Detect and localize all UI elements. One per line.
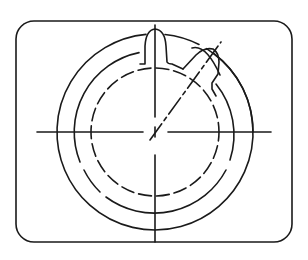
technical-drawing	[0, 0, 308, 260]
middle-circle-lower-left	[84, 170, 100, 192]
middle-circle-bottom	[106, 170, 226, 213]
drawing-canvas	[0, 0, 308, 260]
angled-slot	[183, 49, 219, 96]
center-line-diagonal	[150, 42, 221, 140]
outer-circle-top-segment	[165, 35, 199, 45]
middle-circle-upper-left	[74, 53, 139, 162]
